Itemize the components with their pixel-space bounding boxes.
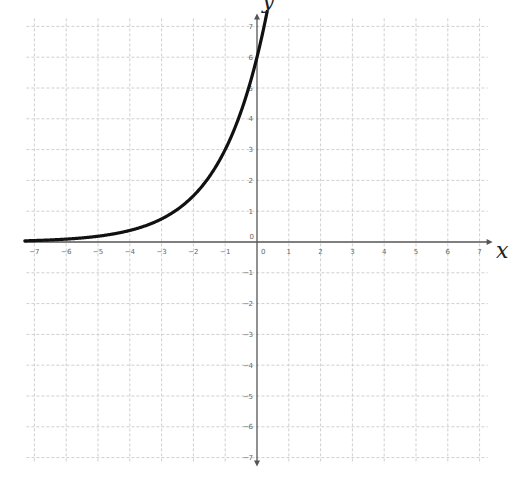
x-tick-label: 0 (261, 248, 265, 256)
x-tick-label: 6 (446, 248, 451, 256)
y-tick-label: −6 (243, 423, 254, 431)
x-tick-label: 1 (287, 248, 291, 256)
y-tick-label: −7 (243, 454, 253, 462)
y-tick-label: −2 (243, 300, 253, 308)
y-axis-arrow-down-icon (254, 461, 260, 467)
y-tick-label: 3 (249, 146, 253, 154)
function-graph: −7−6−5−4−3−2−101234567−7−6−5−4−3−2−10123… (0, 0, 514, 483)
x-tick-label: −4 (125, 248, 136, 256)
y-tick-label: 4 (249, 115, 254, 123)
y-tick-label: 1 (249, 208, 253, 216)
x-axis-arrow-icon (487, 239, 493, 245)
x-tick-label: 2 (318, 248, 322, 256)
axes (24, 13, 492, 466)
x-tick-label: 4 (382, 248, 387, 256)
y-tick-label: 2 (249, 177, 253, 185)
y-tick-label: −4 (243, 362, 254, 370)
x-tick-label: −1 (220, 248, 230, 256)
y-tick-label: −5 (243, 393, 253, 401)
x-tick-label: 5 (414, 248, 418, 256)
x-tick-label: 7 (477, 248, 481, 256)
x-tick-label: 3 (350, 248, 354, 256)
x-tick-label: −6 (61, 248, 72, 256)
x-tick-label: −5 (93, 248, 103, 256)
x-tick-label: −3 (156, 248, 166, 256)
x-axis-title: x (496, 238, 508, 263)
exponential-curve (25, 11, 267, 241)
x-tick-label: −7 (29, 248, 39, 256)
y-tick-label: 7 (249, 23, 253, 31)
y-axis-arrow-up-icon (254, 13, 260, 19)
y-tick-label: −1 (243, 269, 253, 277)
y-tick-label: 6 (249, 54, 254, 62)
y-axis-title: y (262, 0, 274, 13)
y-tick-label: −3 (243, 331, 253, 339)
x-tick-label: −2 (188, 248, 198, 256)
y-tick-label: 0 (250, 233, 254, 241)
